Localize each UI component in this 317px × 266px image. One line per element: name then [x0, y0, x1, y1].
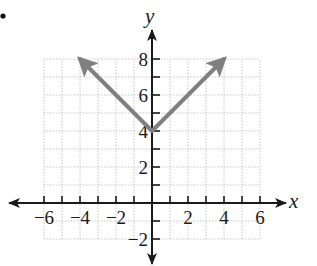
absolute-value-graph: −6−4−22468642−2 x y [0, 0, 317, 266]
list-bullet [0, 13, 5, 18]
x-tick-label: −4 [70, 207, 91, 228]
x-tick-label: 2 [183, 207, 193, 228]
x-tick-label: 4 [219, 207, 229, 228]
x-axis-label: x [288, 189, 299, 213]
y-axis-label: y [143, 4, 155, 28]
y-tick-label: −2 [128, 229, 148, 250]
y-tick-label: 2 [139, 157, 149, 178]
y-tick-label: 8 [139, 49, 149, 70]
x-tick-label: −6 [34, 207, 54, 228]
x-tick-label: 6 [255, 207, 265, 228]
x-tick-label: −2 [106, 207, 126, 228]
y-tick-label: 6 [139, 85, 149, 106]
